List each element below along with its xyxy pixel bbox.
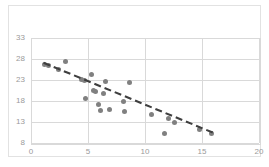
data-point [63, 59, 68, 64]
scatter-chart: 81318232833 05101520 [0, 0, 269, 167]
gridline-horizontal [31, 143, 259, 144]
gridline-vertical [88, 38, 89, 143]
y-axis-tick-label: 33 [0, 34, 25, 42]
x-axis-tick-label: 20 [247, 148, 269, 156]
gridline-vertical [145, 38, 146, 143]
x-axis-tick-label: 15 [190, 148, 214, 156]
x-axis-tick-label: 0 [19, 148, 43, 156]
y-axis-tick-label: 28 [0, 55, 25, 63]
y-axis-tick-label: 18 [0, 97, 25, 105]
data-point [209, 131, 214, 136]
data-point [162, 131, 167, 136]
gridline-vertical [202, 38, 203, 143]
data-point [121, 99, 126, 104]
gridline-vertical [31, 38, 32, 143]
data-point [46, 63, 51, 68]
y-axis-tick-label: 23 [0, 76, 25, 84]
y-axis-tick-label: 8 [0, 139, 25, 147]
data-point [127, 80, 132, 85]
data-point [98, 108, 103, 113]
data-point [56, 67, 61, 72]
y-axis-tick-label: 13 [0, 118, 25, 126]
data-point [103, 79, 108, 84]
plot-area [31, 38, 261, 145]
x-axis-tick-label: 10 [133, 148, 157, 156]
gridline-vertical [259, 38, 260, 143]
data-point [89, 72, 94, 77]
x-axis-tick-label: 5 [76, 148, 100, 156]
data-point [96, 102, 101, 107]
